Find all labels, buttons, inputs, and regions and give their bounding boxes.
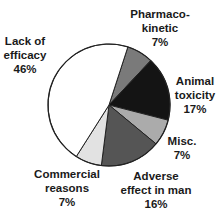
label-adverse-effect: Adverse effect in man 16% — [121, 169, 192, 211]
pie-slices — [48, 44, 170, 166]
label-percent: 7% — [34, 195, 100, 209]
label-line: efficacy — [4, 48, 47, 62]
label-lack-of-efficacy: Lack of efficacy 46% — [4, 34, 47, 76]
label-misc: Misc. 7% — [168, 134, 197, 162]
label-line: toxicity — [175, 88, 215, 102]
label-line: Animal — [175, 74, 215, 88]
label-animal-toxicity: Animal toxicity 17% — [175, 74, 215, 116]
label-pharmacokinetic: Pharmaco- kinetic 7% — [130, 7, 189, 49]
label-percent: 7% — [168, 148, 197, 162]
label-line: Misc. — [168, 134, 197, 148]
label-percent: 46% — [4, 62, 47, 76]
label-percent: 7% — [130, 35, 189, 49]
label-line: Pharmaco- — [130, 7, 189, 21]
label-commercial-reasons: Commercial reasons 7% — [34, 167, 100, 209]
label-line: effect in man — [121, 183, 192, 197]
label-line: kinetic — [130, 21, 189, 35]
label-line: reasons — [34, 181, 100, 195]
label-line: Commercial — [34, 167, 100, 181]
label-percent: 17% — [175, 102, 215, 116]
label-line: Lack of — [4, 34, 47, 48]
label-line: Adverse — [121, 169, 192, 183]
label-percent: 16% — [121, 197, 192, 211]
